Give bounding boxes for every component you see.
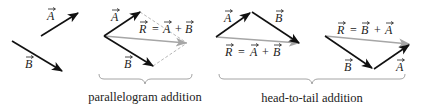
head-to-tail-caption: head-to-tail addition bbox=[261, 91, 363, 105]
equation-r-equals-b-plus-a: R = B + A bbox=[336, 22, 394, 38]
vector-b-label: B bbox=[344, 59, 353, 75]
svg-text:=: = bbox=[350, 23, 357, 37]
panel-head-to-tail-ba: R = B + A B A bbox=[325, 22, 409, 75]
head-to-tail-brace bbox=[219, 74, 405, 84]
svg-text:R: R bbox=[138, 22, 147, 36]
equation-r-equals-a-plus-b: R = A + B bbox=[224, 44, 282, 60]
vector-a-label: A bbox=[395, 59, 405, 75]
svg-text:=: = bbox=[152, 22, 159, 36]
vector-addition-diagram: A B A B R = A + B bbox=[0, 0, 425, 110]
svg-text:A: A bbox=[249, 45, 258, 59]
vector-a-arrow bbox=[374, 45, 409, 69]
vector-a-arrow bbox=[104, 12, 140, 36]
vector-a-label: A bbox=[110, 9, 120, 25]
vector-a-label: A bbox=[223, 10, 233, 26]
panel-head-to-tail-ab: A B R = A + B bbox=[216, 10, 299, 60]
resultant-r-arrow bbox=[325, 36, 409, 44]
svg-text:R: R bbox=[224, 45, 233, 59]
svg-text:A: A bbox=[223, 11, 232, 25]
svg-text:+: + bbox=[262, 45, 269, 59]
svg-text:B: B bbox=[361, 23, 369, 37]
svg-text:+: + bbox=[175, 22, 182, 36]
vector-a-label: A bbox=[46, 8, 56, 24]
vector-b-label: B bbox=[275, 10, 284, 26]
dashed-guide-b bbox=[153, 43, 187, 66]
svg-text:+: + bbox=[374, 23, 381, 37]
svg-text:A: A bbox=[46, 9, 55, 23]
svg-text:B: B bbox=[273, 45, 281, 59]
svg-text:A: A bbox=[395, 60, 404, 74]
svg-text:B: B bbox=[344, 60, 352, 74]
resultant-r-arrow bbox=[104, 36, 186, 43]
panel-separate-vectors: A B bbox=[12, 8, 78, 72]
resultant-r-arrow bbox=[216, 37, 299, 43]
panel-parallelogram: A B R = A + B bbox=[104, 9, 194, 72]
vector-b-arrow bbox=[12, 41, 62, 71]
svg-text:=: = bbox=[238, 45, 245, 59]
svg-text:B: B bbox=[275, 11, 283, 25]
svg-text:B: B bbox=[25, 57, 33, 71]
svg-text:B: B bbox=[124, 57, 132, 71]
vector-b-label: B bbox=[124, 56, 133, 72]
vector-a-arrow bbox=[216, 13, 250, 37]
svg-text:A: A bbox=[110, 10, 119, 24]
equation-r-equals-a-plus-b: R = A + B bbox=[138, 21, 194, 37]
parallelogram-brace bbox=[99, 74, 192, 84]
parallelogram-caption: parallelogram addition bbox=[88, 90, 202, 104]
svg-text:A: A bbox=[384, 23, 393, 37]
svg-text:A: A bbox=[162, 22, 171, 36]
vector-b-label: B bbox=[25, 56, 34, 72]
svg-text:B: B bbox=[185, 22, 193, 36]
svg-text:R: R bbox=[336, 23, 345, 37]
